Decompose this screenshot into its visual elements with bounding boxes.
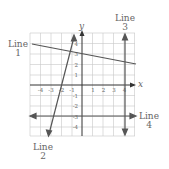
x-axis-label: x — [138, 80, 143, 89]
y-axis-label: y — [79, 22, 84, 31]
coordinate-plane: -4-3 -2-1 12 34 43 21 -1-2 -3-4 — [0, 0, 169, 169]
svg-text:2: 2 — [102, 87, 106, 93]
svg-text:1: 1 — [91, 87, 95, 93]
label-number: 2 — [30, 152, 56, 161]
label-number: 4 — [136, 121, 162, 130]
label-number: 3 — [112, 23, 138, 32]
line-4-label: Line 4 — [136, 112, 162, 130]
svg-text:-4: -4 — [38, 87, 44, 93]
line-3-label: Line 3 — [112, 14, 138, 32]
svg-text:-2: -2 — [73, 103, 78, 109]
svg-text:-3: -3 — [48, 87, 54, 93]
label-number: 1 — [5, 49, 31, 58]
svg-text:-1: -1 — [73, 93, 78, 99]
x-axis-arrow-icon — [130, 83, 136, 88]
axes — [30, 33, 134, 136]
svg-text:1: 1 — [75, 72, 79, 78]
svg-text:2: 2 — [75, 62, 79, 68]
svg-text:3: 3 — [112, 87, 116, 93]
svg-text:-4: -4 — [73, 124, 79, 130]
line-1-label: Line 1 — [5, 40, 31, 58]
line-2-label: Line 2 — [30, 143, 56, 161]
